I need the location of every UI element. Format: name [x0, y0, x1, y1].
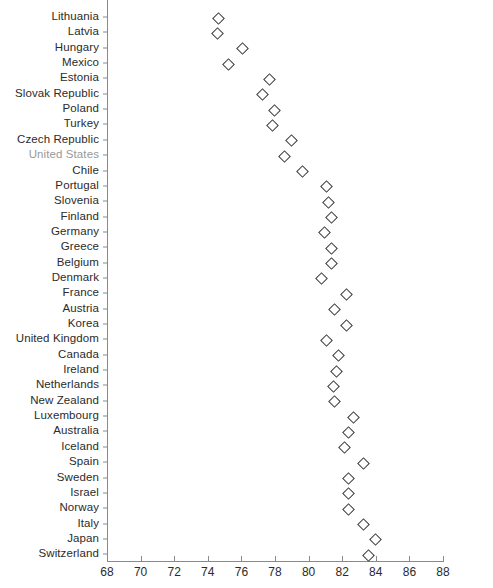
- category-tick-mark: [103, 247, 107, 248]
- data-point-marker: [266, 119, 279, 132]
- scatter-chart: LithuaniaLatviaHungaryMexicoEstoniaSlova…: [0, 0, 493, 588]
- data-point-marker: [285, 134, 298, 147]
- category-label: Netherlands: [36, 380, 99, 392]
- data-point-marker: [318, 227, 331, 240]
- x-tick-label: 68: [100, 566, 113, 579]
- x-tick-label: 72: [168, 566, 181, 579]
- category-tick-mark: [103, 385, 107, 386]
- data-point-marker: [328, 303, 341, 316]
- data-point-marker: [328, 395, 341, 408]
- category-label: Slovenia: [54, 195, 99, 207]
- category-tick-mark: [103, 308, 107, 309]
- data-point-marker: [322, 196, 335, 209]
- data-point-marker: [315, 273, 328, 286]
- data-point-marker: [211, 27, 224, 40]
- category-tick-mark: [103, 201, 107, 202]
- category-tick-mark: [103, 216, 107, 217]
- data-point-marker: [332, 349, 345, 362]
- category-label: United Kingdom: [16, 334, 99, 346]
- category-tick-mark: [103, 538, 107, 539]
- data-point-marker: [297, 165, 310, 178]
- category-tick-mark: [103, 339, 107, 340]
- category-tick-mark: [103, 231, 107, 232]
- data-point-marker: [357, 518, 370, 531]
- x-tick-mark: [275, 556, 276, 561]
- category-label: Finland: [61, 211, 99, 223]
- category-label: Latvia: [68, 27, 99, 39]
- category-label: France: [63, 288, 99, 300]
- category-tick-mark: [103, 324, 107, 325]
- data-point-marker: [325, 211, 338, 224]
- category-label: Lithuania: [51, 11, 99, 23]
- category-tick-mark: [103, 277, 107, 278]
- category-label: New Zealand: [30, 395, 99, 407]
- category-label: Iceland: [61, 441, 99, 453]
- x-tick-label: 80: [302, 566, 315, 579]
- category-label: Austria: [63, 303, 100, 315]
- x-tick-label: 86: [403, 566, 416, 579]
- category-tick-mark: [103, 431, 107, 432]
- category-tick-mark: [103, 78, 107, 79]
- category-tick-mark: [103, 139, 107, 140]
- category-tick-mark: [103, 47, 107, 48]
- x-tick-mark: [376, 556, 377, 561]
- category-tick-mark: [103, 508, 107, 509]
- x-tick-mark: [241, 556, 242, 561]
- category-label: Ireland: [63, 364, 99, 376]
- category-label: Poland: [63, 103, 99, 115]
- x-tick-mark: [309, 556, 310, 561]
- data-point-marker: [347, 411, 360, 424]
- data-point-marker: [236, 42, 249, 55]
- category-tick-mark: [103, 477, 107, 478]
- category-label: Japan: [67, 533, 99, 545]
- x-tick-label: 88: [436, 566, 449, 579]
- category-tick-mark: [103, 492, 107, 493]
- category-tick-mark: [103, 124, 107, 125]
- category-label: Turkey: [64, 119, 99, 131]
- data-point-marker: [330, 365, 343, 378]
- category-tick-mark: [103, 185, 107, 186]
- x-tick-label: 82: [336, 566, 349, 579]
- x-tick-mark: [208, 556, 209, 561]
- x-tick-label: 70: [134, 566, 147, 579]
- data-point-marker: [342, 503, 355, 516]
- data-point-marker: [256, 88, 269, 101]
- data-point-marker: [327, 380, 340, 393]
- category-label: Luxembourg: [34, 410, 99, 422]
- data-point-marker: [263, 73, 276, 86]
- category-tick-mark: [103, 155, 107, 156]
- x-tick-mark: [409, 556, 410, 561]
- category-label: Greece: [61, 242, 99, 254]
- category-label: Denmark: [52, 272, 99, 284]
- category-label: Belgium: [57, 257, 99, 269]
- category-tick-mark: [103, 400, 107, 401]
- x-tick-label: 78: [268, 566, 281, 579]
- category-tick-mark: [103, 446, 107, 447]
- data-point-marker: [342, 426, 355, 439]
- category-label: Australia: [53, 426, 99, 438]
- data-point-marker: [339, 441, 352, 454]
- category-tick-mark: [103, 17, 107, 18]
- category-tick-mark: [103, 462, 107, 463]
- data-point-marker: [342, 487, 355, 500]
- data-point-marker: [357, 457, 370, 470]
- category-label: Mexico: [62, 57, 99, 69]
- data-point-marker: [223, 58, 236, 71]
- category-label: Spain: [69, 456, 99, 468]
- category-label: Estonia: [60, 73, 99, 85]
- category-label: Israel: [70, 487, 99, 499]
- category-tick-mark: [103, 523, 107, 524]
- data-point-marker: [362, 549, 375, 562]
- category-label: Slovak Republic: [15, 88, 99, 100]
- category-label: Chile: [72, 165, 99, 177]
- category-label: Norway: [59, 502, 99, 514]
- x-tick-label: 76: [235, 566, 248, 579]
- data-point-marker: [369, 534, 382, 547]
- category-tick-mark: [103, 93, 107, 94]
- x-tick-label: 74: [201, 566, 214, 579]
- data-point-marker: [342, 472, 355, 485]
- category-label: Korea: [68, 318, 99, 330]
- category-label: Italy: [77, 518, 99, 530]
- x-tick-mark: [107, 556, 108, 561]
- category-tick-mark: [103, 170, 107, 171]
